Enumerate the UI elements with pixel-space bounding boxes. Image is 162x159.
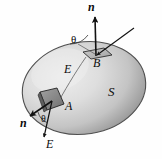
label-patch-b: B (93, 57, 100, 69)
label-theta-top: θ (71, 34, 76, 45)
label-patch-a: A (65, 100, 72, 112)
normal-vector-n-top (95, 17, 96, 56)
label-surface-s: S (108, 85, 115, 98)
label-theta-bottom: θ (41, 114, 46, 124)
label-field-e-bottom: E (46, 138, 53, 150)
label-field-e-middle: E (64, 63, 71, 75)
label-normal-n-bottom: n (20, 117, 27, 129)
figure-canvas (0, 0, 162, 159)
electric-flux-figure: n θ B E S A n θ E (0, 0, 162, 159)
closed-surface-s (16, 33, 153, 143)
label-normal-n-top: n (88, 1, 95, 13)
